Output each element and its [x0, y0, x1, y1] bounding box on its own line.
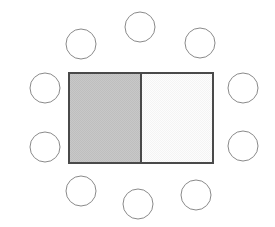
chair-right-lower[interactable]	[228, 131, 258, 161]
chair-top-right[interactable]	[185, 28, 215, 58]
rectangular-table[interactable]	[69, 73, 213, 163]
chair-bottom-left[interactable]	[66, 176, 96, 206]
chair-bottom-center[interactable]	[123, 189, 153, 219]
chair-top-left[interactable]	[66, 29, 96, 59]
chair-right-upper[interactable]	[228, 73, 258, 103]
chair-left-lower[interactable]	[30, 132, 60, 162]
table-shaded-half[interactable]	[69, 73, 141, 163]
seating-diagram	[0, 0, 275, 227]
table-plain-half[interactable]	[141, 73, 213, 163]
chair-top-center[interactable]	[125, 12, 155, 42]
chair-bottom-right[interactable]	[181, 180, 211, 210]
chair-left-upper[interactable]	[30, 73, 60, 103]
diagram-canvas	[0, 0, 275, 227]
